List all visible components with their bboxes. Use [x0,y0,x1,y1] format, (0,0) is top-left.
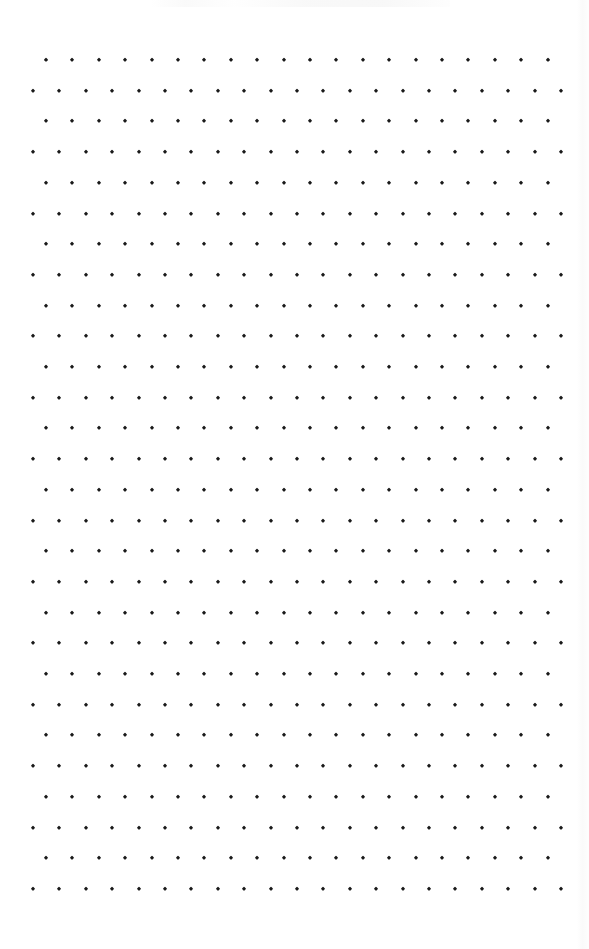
grid-dot [559,579,564,584]
grid-dot [189,395,194,400]
grid-dot [506,886,511,891]
grid-dot [559,641,564,646]
grid-dot [413,487,418,492]
grid-dot [545,733,550,738]
grid-dot [70,856,75,861]
grid-dot [295,641,300,646]
grid-dot [110,764,115,769]
grid-dot [479,641,484,646]
grid-dot [123,672,128,677]
grid-dot [268,702,273,707]
grid-dot [83,334,88,339]
grid-dot [360,549,365,554]
grid-dot [479,395,484,400]
grid-dot [532,457,537,462]
grid-dot [176,733,181,738]
grid-dot [334,794,339,799]
grid-dot [321,579,326,584]
grid-dot [242,579,247,584]
grid-dot [281,672,286,677]
grid-dot [360,672,365,677]
grid-dot [123,426,128,431]
grid-dot [427,518,432,523]
grid-dot [440,365,445,370]
grid-dot [347,764,352,769]
grid-dot [413,856,418,861]
grid-dot [136,764,141,769]
grid-dot [268,395,273,400]
grid-dot [360,733,365,738]
grid-dot [31,579,36,584]
grid-dot [70,303,75,308]
grid-dot [163,272,168,277]
grid-dot [123,58,128,63]
grid-dot [149,487,154,492]
grid-dot [255,180,260,185]
grid-dot [492,303,497,308]
dot-grid-canvas [0,0,589,949]
grid-dot [479,764,484,769]
grid-dot [440,303,445,308]
grid-dot [321,88,326,93]
grid-dot [44,610,49,615]
grid-dot [347,211,352,216]
grid-dot [532,702,537,707]
grid-dot [427,457,432,462]
grid-dot [31,272,36,277]
grid-dot [57,334,62,339]
grid-dot [149,794,154,799]
grid-dot [44,549,49,554]
notebook-page [0,0,589,949]
grid-dot [189,886,194,891]
grid-dot [83,150,88,155]
grid-dot [559,211,564,216]
grid-dot [387,180,392,185]
grid-dot [136,395,141,400]
grid-dot [413,794,418,799]
grid-dot [242,886,247,891]
grid-dot [492,856,497,861]
grid-dot [492,672,497,677]
grid-dot [321,272,326,277]
grid-dot [360,58,365,63]
grid-dot [228,733,233,738]
grid-dot [281,733,286,738]
grid-dot [295,825,300,830]
grid-dot [532,211,537,216]
grid-dot [202,733,207,738]
grid-dot [242,518,247,523]
grid-dot [479,457,484,462]
grid-dot [374,886,379,891]
grid-dot [202,610,207,615]
grid-dot [427,579,432,584]
grid-dot [347,702,352,707]
grid-dot [347,825,352,830]
grid-dot [57,518,62,523]
grid-dot [506,211,511,216]
grid-dot [149,58,154,63]
grid-dot [506,518,511,523]
grid-dot [374,272,379,277]
grid-dot [532,641,537,646]
grid-dot [387,610,392,615]
grid-dot [202,549,207,554]
grid-dot [440,733,445,738]
grid-dot [149,365,154,370]
grid-dot [295,150,300,155]
grid-dot [466,487,471,492]
grid-dot [268,334,273,339]
grid-dot [413,549,418,554]
grid-dot [255,549,260,554]
grid-dot [559,886,564,891]
grid-dot [215,88,220,93]
grid-dot [559,334,564,339]
grid-dot [532,150,537,155]
grid-dot [308,856,313,861]
grid-dot [440,58,445,63]
grid-dot [176,487,181,492]
grid-dot [110,395,115,400]
grid-dot [559,457,564,462]
grid-dot [110,457,115,462]
grid-dot [31,395,36,400]
grid-dot [360,119,365,124]
